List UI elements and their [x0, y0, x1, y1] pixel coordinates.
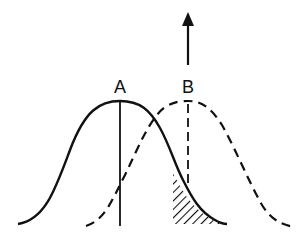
label-a: A — [114, 77, 126, 97]
normal-distributions-diagram: A B — [0, 0, 307, 237]
up-arrow-icon — [182, 12, 194, 65]
curve-a — [18, 101, 227, 224]
label-b: B — [182, 77, 194, 97]
